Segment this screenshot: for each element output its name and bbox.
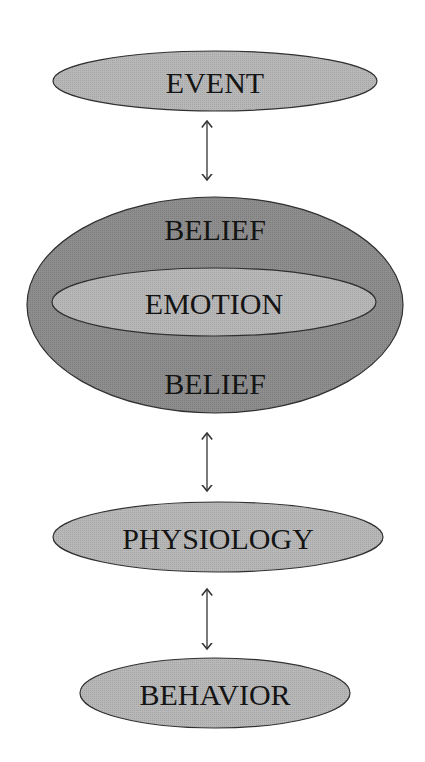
emotion-label: EMOTION: [145, 287, 283, 320]
event-node: EVENT: [53, 51, 377, 111]
event-label: EVENT: [166, 66, 264, 99]
diagram-canvas: EVENT BELIEF BELIEF EMOTION PHYSIOLOGY B…: [0, 0, 425, 762]
behavior-label: BEHAVIOR: [139, 678, 290, 711]
behavior-node: BEHAVIOR: [80, 658, 350, 728]
emotion-node: EMOTION: [52, 268, 376, 336]
physiology-label: PHYSIOLOGY: [122, 522, 314, 555]
belief-bottom-label: BELIEF: [164, 367, 266, 400]
physiology-node: PHYSIOLOGY: [53, 502, 383, 572]
belief-top-label: BELIEF: [164, 213, 266, 246]
